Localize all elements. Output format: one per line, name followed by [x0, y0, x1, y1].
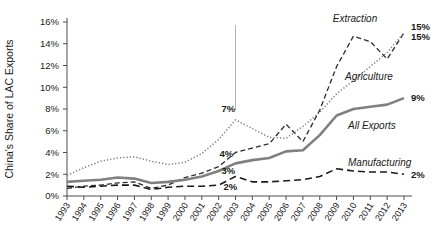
annotation-manufacturing-2003: 2% [224, 181, 238, 192]
y-tick-label: 4% [45, 147, 59, 158]
x-tick-label: 1995 [87, 201, 106, 223]
y-tick-label: 14% [40, 38, 60, 49]
y-tick-label: 6% [45, 125, 59, 136]
x-tick-label: 2005 [255, 201, 274, 223]
x-tick-label: 2008 [306, 201, 325, 223]
x-tick-label: 1993 [53, 201, 72, 223]
x-axis-tick-labels: 1993199419951996199719981999200020012002… [53, 201, 409, 223]
x-axis-tick-marks [67, 196, 404, 200]
series-label-extraction: Extraction [333, 13, 378, 24]
end-value-label-agriculture: 15% [411, 31, 431, 42]
y-tick-label: 0% [45, 190, 59, 201]
series-inline-labels: ExtractionAgricultureAll ExportsManufact… [333, 13, 412, 168]
y-tick-label: 12% [40, 60, 60, 71]
series-label-manufacturing: Manufacturing [348, 157, 412, 168]
x-tick-label: 2002 [205, 201, 224, 223]
x-tick-label: 2009 [322, 201, 341, 223]
x-tick-label: 2013 [390, 201, 409, 223]
annotation-extraction-2003: 4% [220, 148, 234, 159]
x-tick-label: 1998 [137, 201, 156, 223]
x-tick-label: 2007 [289, 201, 308, 223]
y-axis-title: China's Share of LAC Exports [3, 39, 15, 178]
x-tick-label: 2001 [188, 201, 207, 223]
x-tick-label: 1994 [70, 201, 89, 223]
y-axis-tick-marks [63, 22, 67, 196]
x-tick-label: 2003 [221, 201, 240, 223]
y-tick-label: 10% [40, 82, 60, 93]
x-tick-label: 2010 [339, 201, 358, 223]
x-tick-label: 2012 [373, 201, 392, 223]
y-tick-label: 16% [40, 16, 60, 27]
x-tick-label: 2000 [171, 201, 190, 223]
x-tick-label: 2006 [272, 201, 291, 223]
series-label-agriculture: Agriculture [344, 71, 393, 82]
y-tick-label: 8% [45, 103, 59, 114]
x-tick-label: 2004 [238, 201, 257, 223]
series-label-all-exports: All Exports [347, 120, 396, 131]
x-tick-label: 1999 [154, 201, 173, 223]
chart-container: 0%2%4%6%8%10%12%14%16% 19931994199519961… [0, 0, 439, 244]
x-tick-label: 1997 [120, 201, 139, 223]
x-tick-label: 2011 [357, 201, 376, 223]
annotation-all-exports-2003: 3% [222, 165, 236, 176]
y-tick-label: 2% [45, 169, 59, 180]
line-chart-figure: 0%2%4%6%8%10%12%14%16% 19931994199519961… [0, 0, 439, 244]
end-value-label-manufacturing: 2% [411, 169, 425, 180]
x-tick-label: 1996 [103, 201, 122, 223]
y-axis-tick-labels: 0%2%4%6%8%10%12%14%16% [40, 16, 60, 201]
annotation-agriculture-2003: 7% [222, 103, 236, 114]
end-value-label-all-exports: 9% [411, 92, 425, 103]
